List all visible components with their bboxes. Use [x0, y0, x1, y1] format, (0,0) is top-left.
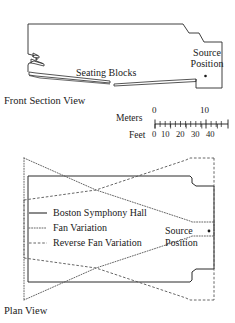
plan-source-label-line2: Position	[165, 238, 209, 248]
front-source-position-label: Source Position	[182, 48, 232, 69]
scale-ticks-feet	[155, 124, 217, 129]
plan-source-position-label: Source Position	[165, 226, 209, 248]
acoustics-figure: Seating Blocks Source Position Front Sec…	[0, 0, 235, 323]
plan-source-label-line1: Source	[165, 226, 209, 236]
scale-meters-label: Meters	[116, 114, 142, 124]
scale-feet-tick-20: 20	[176, 130, 185, 139]
seating-block-right	[114, 79, 196, 86]
legend-item-reverse-fan-variation: Reverse Fan Variation	[53, 238, 142, 248]
plan-view-label: Plan View	[4, 306, 47, 317]
front-source-label-line1: Source	[182, 48, 232, 58]
stage-platform-profile	[196, 79, 222, 88]
scale-feet-label: Feet	[129, 131, 145, 141]
front-section-view-label: Front Section View	[4, 96, 85, 107]
bsh-plan-outline	[28, 176, 214, 186]
reverse-fan-variation-plan-lower	[24, 258, 214, 300]
legend-item-fan-variation: Fan Variation	[53, 223, 107, 233]
seating-blocks-label: Seating Blocks	[76, 68, 136, 78]
scale-feet-tick-0: 0	[152, 130, 156, 139]
scale-meters-tick-0: 0	[152, 106, 157, 115]
scale-feet-tick-30: 30	[191, 130, 200, 139]
upper-balcony-block	[33, 55, 39, 58]
lower-left-wall	[28, 63, 31, 72]
scale-feet-tick-10: 10	[161, 130, 170, 139]
reverse-fan-variation-plan	[24, 158, 214, 200]
front-source-label-line2: Position	[182, 59, 232, 69]
legend-item-boston-symphony-hall: Boston Symphony Hall	[53, 208, 147, 218]
scale-feet-tick-40: 40	[206, 130, 215, 139]
front-source-position-dot	[204, 75, 207, 78]
scale-meters-tick-10: 10	[200, 106, 209, 115]
bsh-plan-outline-lower	[28, 269, 214, 282]
